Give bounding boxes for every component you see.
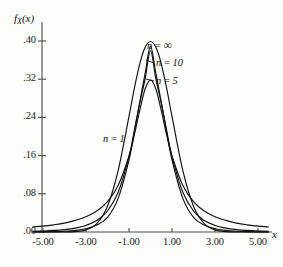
x-tick-label: -1.00: [107, 236, 151, 247]
x-tick-label: 5.00: [236, 236, 280, 247]
y-tick-label: .40: [8, 34, 36, 45]
x-tick-label: 1.00: [150, 236, 194, 247]
t-distribution-chart: fX(x) x .00.08.16.24.32.40-5.00-3.00-1.0…: [0, 0, 283, 267]
curve-label: n = 5: [156, 75, 178, 86]
y-axis-title-arg: (x): [22, 12, 34, 24]
y-axis-title: fX(x): [14, 12, 34, 26]
curve: [32, 51, 269, 232]
curve: [32, 42, 269, 232]
curve-label: n = ∞: [147, 38, 172, 53]
x-tick-label: -5.00: [21, 236, 65, 247]
y-tick-label: .16: [8, 149, 36, 160]
curve: [32, 80, 269, 227]
curve-label: n = 1: [103, 133, 125, 144]
curve: [32, 46, 269, 232]
x-tick-label: -3.00: [64, 236, 108, 247]
y-tick-label: .32: [8, 72, 36, 83]
y-tick-label: .24: [8, 110, 36, 121]
x-tick-label: 3.00: [193, 236, 237, 247]
y-tick-label: .00: [8, 225, 36, 236]
distribution-curves: [32, 42, 269, 232]
plot-area: [0, 0, 283, 267]
curve-label: n = 10: [156, 57, 183, 68]
y-tick-label: .08: [8, 187, 36, 198]
